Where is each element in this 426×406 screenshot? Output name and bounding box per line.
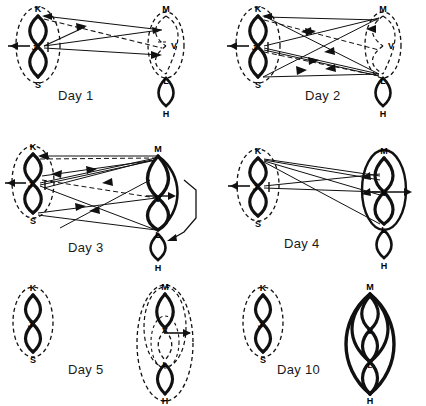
day5-node-K: K — [30, 283, 37, 293]
day5-node-H: H — [162, 396, 169, 406]
day2-node-J: J — [252, 43, 256, 52]
day1-node-S: S — [35, 80, 41, 90]
day3-edge-low-diag — [60, 180, 150, 228]
day2-node-M: M — [379, 4, 387, 14]
day10-node-L: L — [368, 361, 373, 370]
day4-graph: K J S M V L H — [220, 140, 426, 275]
day3-link-J-S-right — [33, 184, 41, 213]
day10-label: Day 10 — [277, 362, 320, 377]
day5-node-M: M — [161, 282, 169, 292]
multi-panel-network-figure: K J S M V L H Day 1 — [0, 0, 426, 406]
day4-edge-K-V1 — [264, 159, 380, 176]
day5-link-J-S-right — [33, 324, 41, 352]
day2-arrowhead-K-L — [324, 47, 335, 55]
day10-node-V: V — [367, 327, 373, 336]
day1-node-K: K — [35, 4, 42, 14]
day3-node-S: S — [30, 216, 36, 226]
day3-node-M: M — [154, 144, 162, 154]
day4-node-J: J — [253, 183, 257, 192]
day3-graph: K J S M V L H — [0, 140, 220, 275]
day5-link-M-V-right — [165, 294, 173, 328]
day3-bracket-arrowhead — [167, 234, 177, 241]
day5-link-K-J-right — [33, 295, 41, 323]
day2-link-J-S-right — [258, 47, 266, 77]
day2-arrowhead-M-K — [262, 13, 272, 20]
day4-link-M-V-right — [384, 158, 393, 192]
day1-graph: K J S M V L H — [0, 0, 213, 135]
day5-link-M-V-left — [157, 294, 165, 328]
day5-label: Day 5 — [68, 362, 103, 377]
day1-link-J-S-right — [38, 47, 46, 77]
day1-arrowhead-M-K — [42, 13, 52, 20]
day3-input-arrowhead — [7, 179, 15, 187]
day2-link-K-J-left — [250, 16, 258, 46]
panel-day10: K J S M V L H Day 10 — [230, 280, 426, 406]
day10-node-K: K — [260, 283, 267, 293]
day10-link-J-S-right — [263, 324, 271, 352]
day2-arrowhead-into-M — [366, 25, 376, 33]
day1-arrowhead-J-M — [152, 27, 162, 34]
day10-node-M: M — [366, 282, 374, 292]
day2-node-L: L — [380, 76, 386, 86]
day2-node-H: H — [380, 109, 387, 119]
panel-day2: K J S M V L H Day 2 — [213, 0, 426, 135]
day1-link-K-J-right — [38, 16, 46, 46]
day1-edge-J-V — [44, 48, 160, 55]
day2-label: Day 2 — [305, 88, 340, 103]
day3-v-output-arrowhead — [168, 192, 176, 200]
day2-input-arrowhead — [229, 42, 237, 50]
day10-node-H: H — [367, 396, 374, 406]
day3-link-K-J-left — [25, 154, 33, 183]
panel-day1: K J S M V L H Day 1 — [0, 0, 213, 135]
day5-v-output-arrowhead — [183, 329, 191, 337]
day3-node-L: L — [155, 230, 161, 240]
day4-node-K: K — [255, 146, 262, 156]
panel-day4: K J S M V L H Day 4 — [220, 140, 426, 275]
day2-edge-M-K — [264, 17, 379, 20]
day4-input-arrowhead — [230, 182, 238, 190]
day4-label: Day 4 — [284, 236, 319, 251]
day10-graph: K J S M V L H — [230, 280, 426, 406]
day2-graph: K J S M V L H — [213, 0, 426, 135]
day2-edge-dashed-J-L — [264, 52, 379, 76]
day3-node-K: K — [30, 142, 37, 152]
day4-node-M: M — [380, 146, 388, 156]
day1-link-V-L-left — [156, 46, 167, 74]
day5-node-S: S — [30, 355, 36, 365]
day1-input-arrowhead — [10, 42, 18, 50]
day10-link-K-J-right — [263, 295, 271, 323]
day1-label: Day 1 — [58, 88, 93, 103]
day1-node-J: J — [32, 43, 36, 52]
day4-link-K-J-left — [250, 158, 258, 186]
day1-node-L: L — [163, 76, 169, 86]
panel-day3: K J S M V L H Day 3 — [0, 140, 220, 275]
day2-node-V: V — [388, 41, 394, 51]
day10-node-J: J — [258, 320, 262, 329]
day3-edge-S-L — [38, 215, 156, 230]
day2-node-K: K — [255, 4, 262, 14]
day3-node-J: J — [28, 180, 32, 189]
day4-link-J-S-right — [258, 187, 266, 216]
day2-edge-J-L — [264, 48, 379, 74]
day10-link-K-J-left — [256, 295, 264, 323]
day5-node-J: J — [28, 320, 32, 329]
panel-day5: K J S M V L H Day 5 — [0, 280, 230, 406]
day4-node-H: H — [381, 261, 388, 271]
day1-link-K-J-left — [30, 16, 38, 46]
day5-graph: K J S M V L H — [0, 280, 230, 406]
day2-node-S: S — [255, 80, 261, 90]
day5-node-L: L — [163, 360, 168, 369]
day1-right-cluster-outline — [148, 12, 184, 78]
day5-link-K-J-left — [26, 295, 34, 323]
day2-link-V-L-left — [373, 46, 384, 74]
day4-node-V: V — [381, 188, 387, 198]
day3-edge-J-M — [40, 158, 156, 183]
day4-node-S: S — [255, 219, 261, 229]
day2-edge-J-M — [264, 18, 379, 46]
day2-arrowhead-J-L2 — [296, 66, 307, 75]
day3-link-M-V-left — [148, 156, 159, 198]
day4-node-L: L — [381, 225, 387, 235]
day2-edge-S-L — [263, 74, 379, 77]
day1-node-H: H — [163, 109, 170, 119]
day1-node-V: V — [171, 41, 177, 51]
